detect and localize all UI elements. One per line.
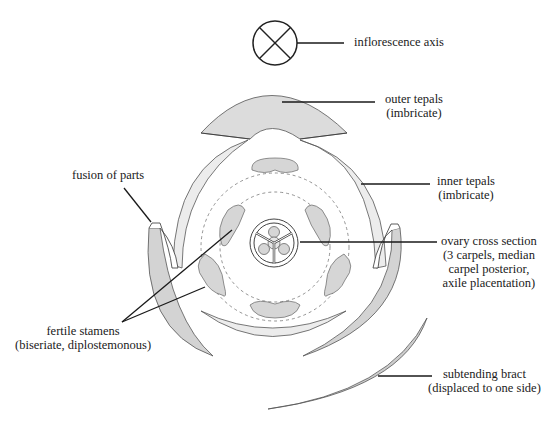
inner-tepal-upper-right [300, 140, 386, 268]
ovary-cross-section [250, 219, 298, 267]
stamen-outer-top [252, 158, 298, 173]
stamen-outer-lower-left [198, 254, 225, 296]
label-fusion-of-parts: fusion of parts [72, 168, 144, 182]
label-fertile-stamens: fertile stamens (biseriate, diplostemono… [15, 324, 151, 352]
label-subtending-bract: subtending bract (displaced to one side) [428, 367, 541, 395]
stamen-inner-upper-left [220, 205, 245, 246]
label-inflorescence-axis: inflorescence axis [354, 35, 444, 49]
label-ovary-cross-section: ovary cross section (3 carpels, median c… [441, 234, 537, 290]
inflorescence-axis-symbol [253, 21, 297, 65]
label-outer-tepals: outer tepals (imbricate) [385, 92, 443, 120]
label-inner-tepals: inner tepals (imbricate) [437, 174, 495, 202]
outer-tepal-lower-right [303, 228, 401, 356]
floral-diagram: inflorescence axis outer tepals (imbrica… [0, 0, 558, 431]
stamen-inner-bottom [250, 301, 300, 318]
stamen-inner-upper-right [305, 205, 330, 246]
